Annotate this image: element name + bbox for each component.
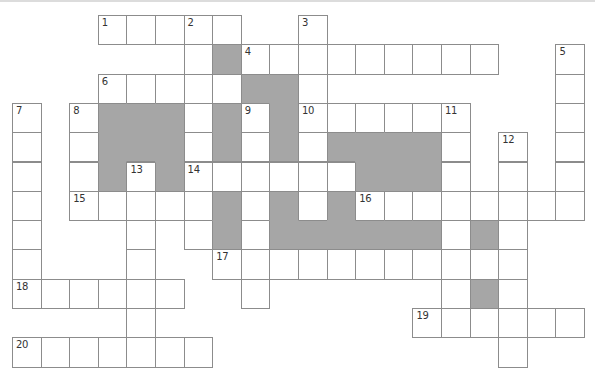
crossword-cell[interactable] xyxy=(527,308,557,338)
letter-input[interactable] xyxy=(242,280,270,308)
letter-input[interactable] xyxy=(499,192,527,220)
crossword-cell[interactable] xyxy=(498,308,528,338)
letter-input[interactable] xyxy=(242,163,270,191)
crossword-cell[interactable] xyxy=(441,220,471,250)
letter-input[interactable] xyxy=(556,104,584,132)
letter-input[interactable] xyxy=(242,45,270,73)
letter-input[interactable] xyxy=(328,45,356,73)
crossword-cell[interactable] xyxy=(470,249,500,279)
letter-input[interactable] xyxy=(442,221,470,249)
crossword-cell[interactable] xyxy=(126,279,156,309)
letter-input[interactable] xyxy=(270,250,298,278)
crossword-cell[interactable] xyxy=(69,132,99,162)
letter-input[interactable] xyxy=(127,163,155,191)
crossword-cell[interactable] xyxy=(241,191,271,221)
crossword-cell[interactable] xyxy=(412,103,442,133)
letter-input[interactable] xyxy=(499,309,527,337)
crossword-cell[interactable] xyxy=(126,74,156,104)
letter-input[interactable] xyxy=(13,133,41,161)
crossword-cell[interactable] xyxy=(470,44,500,74)
crossword-cell[interactable] xyxy=(98,337,128,367)
letter-input[interactable] xyxy=(185,338,213,366)
crossword-cell[interactable] xyxy=(441,249,471,279)
crossword-cell[interactable]: 11 xyxy=(441,103,471,133)
letter-input[interactable] xyxy=(127,16,155,44)
letter-input[interactable] xyxy=(442,250,470,278)
crossword-cell[interactable] xyxy=(155,74,185,104)
crossword-cell[interactable] xyxy=(126,337,156,367)
crossword-cell[interactable] xyxy=(12,191,42,221)
letter-input[interactable] xyxy=(442,309,470,337)
letter-input[interactable] xyxy=(356,45,384,73)
letter-input[interactable] xyxy=(156,280,184,308)
letter-input[interactable] xyxy=(299,133,327,161)
letter-input[interactable] xyxy=(99,75,127,103)
letter-input[interactable] xyxy=(499,163,527,191)
crossword-cell[interactable] xyxy=(184,220,214,250)
crossword-cell[interactable] xyxy=(355,103,385,133)
letter-input[interactable] xyxy=(270,45,298,73)
letter-input[interactable] xyxy=(185,16,213,44)
crossword-cell[interactable] xyxy=(441,279,471,309)
crossword-cell[interactable]: 2 xyxy=(184,15,214,45)
letter-input[interactable] xyxy=(13,338,41,366)
crossword-cell[interactable] xyxy=(269,249,299,279)
crossword-cell[interactable] xyxy=(155,337,185,367)
letter-input[interactable] xyxy=(70,280,98,308)
letter-input[interactable] xyxy=(127,280,155,308)
crossword-cell[interactable] xyxy=(555,74,585,104)
letter-input[interactable] xyxy=(499,221,527,249)
crossword-cell[interactable] xyxy=(69,279,99,309)
letter-input[interactable] xyxy=(413,250,441,278)
crossword-cell[interactable] xyxy=(212,162,242,192)
crossword-cell[interactable] xyxy=(498,337,528,367)
letter-input[interactable] xyxy=(442,163,470,191)
letter-input[interactable] xyxy=(242,221,270,249)
letter-input[interactable] xyxy=(185,192,213,220)
letter-input[interactable] xyxy=(213,250,241,278)
crossword-cell[interactable] xyxy=(298,74,328,104)
crossword-cell[interactable] xyxy=(98,191,128,221)
crossword-cell[interactable] xyxy=(470,308,500,338)
letter-input[interactable] xyxy=(328,250,356,278)
crossword-cell[interactable] xyxy=(384,103,414,133)
letter-input[interactable] xyxy=(442,192,470,220)
crossword-cell[interactable] xyxy=(298,132,328,162)
letter-input[interactable] xyxy=(299,75,327,103)
crossword-cell[interactable] xyxy=(355,44,385,74)
crossword-cell[interactable]: 5 xyxy=(555,44,585,74)
crossword-cell[interactable] xyxy=(69,162,99,192)
crossword-cell[interactable] xyxy=(12,249,42,279)
crossword-cell[interactable] xyxy=(298,162,328,192)
crossword-cell[interactable]: 1 xyxy=(98,15,128,45)
crossword-cell[interactable]: 7 xyxy=(12,103,42,133)
letter-input[interactable] xyxy=(556,192,584,220)
letter-input[interactable] xyxy=(70,338,98,366)
letter-input[interactable] xyxy=(328,104,356,132)
letter-input[interactable] xyxy=(528,309,556,337)
crossword-cell[interactable] xyxy=(41,337,71,367)
crossword-cell[interactable] xyxy=(384,191,414,221)
crossword-cell[interactable] xyxy=(327,44,357,74)
crossword-cell[interactable]: 12 xyxy=(498,132,528,162)
letter-input[interactable] xyxy=(13,250,41,278)
crossword-cell[interactable]: 13 xyxy=(126,162,156,192)
letter-input[interactable] xyxy=(499,133,527,161)
crossword-cell[interactable]: 3 xyxy=(298,15,328,45)
letter-input[interactable] xyxy=(556,133,584,161)
crossword-cell[interactable] xyxy=(241,132,271,162)
crossword-cell[interactable] xyxy=(298,249,328,279)
letter-input[interactable] xyxy=(185,163,213,191)
crossword-cell[interactable] xyxy=(327,162,357,192)
crossword-cell[interactable] xyxy=(498,162,528,192)
letter-input[interactable] xyxy=(213,16,241,44)
letter-input[interactable] xyxy=(185,221,213,249)
letter-input[interactable] xyxy=(299,45,327,73)
crossword-cell[interactable] xyxy=(126,308,156,338)
crossword-cell[interactable] xyxy=(184,337,214,367)
letter-input[interactable] xyxy=(299,163,327,191)
crossword-cell[interactable] xyxy=(69,337,99,367)
crossword-cell[interactable] xyxy=(241,249,271,279)
letter-input[interactable] xyxy=(42,280,70,308)
crossword-cell[interactable] xyxy=(441,132,471,162)
